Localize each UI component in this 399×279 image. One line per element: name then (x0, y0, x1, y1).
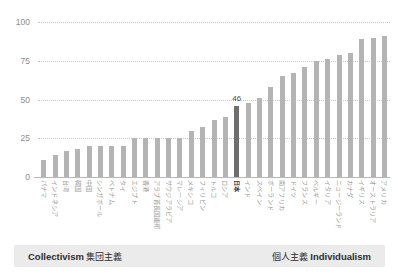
x-axis-tick-label: フランス (302, 180, 308, 205)
bar (121, 146, 126, 177)
x-axis-tick-label: アラブ首長国連邦 (154, 180, 160, 230)
bar-column (197, 22, 208, 177)
bar (177, 138, 182, 177)
x-axis-label-slot: パナマ (38, 180, 49, 236)
bar-highlighted (234, 106, 239, 177)
bar-column (322, 22, 333, 177)
x-axis-tick-label: トルコ (211, 180, 217, 199)
x-axis-label-slot: ポーランド (265, 180, 276, 236)
bar-column (129, 22, 140, 177)
bar (280, 76, 285, 177)
x-axis-tick-label: 中国 (86, 180, 92, 192)
bar-column (345, 22, 356, 177)
bar (53, 155, 58, 177)
x-axis-tick-label: 南アフリカ (279, 180, 285, 211)
bar-column (163, 22, 174, 177)
x-axis-label-slot: 香港 (140, 180, 151, 236)
bar (212, 120, 217, 177)
bar (41, 160, 46, 177)
bar-column (49, 22, 60, 177)
x-axis-tick-label: イタリア (325, 180, 331, 205)
y-axis: 0255075100 (0, 22, 30, 177)
x-axis-label-slot: カナダ (345, 180, 356, 236)
bar-column (38, 22, 49, 177)
x-axis-tick-label: アメリカ (381, 180, 387, 205)
y-axis-tick-label: 0 (0, 173, 30, 181)
x-axis-category-labels: パナマインドネシア台湾韓国中国シンガポールベトナムタイエジプト香港アラブ首長国連… (38, 180, 390, 236)
x-axis-label-slot: ドイツ (288, 180, 299, 236)
x-axis-label-slot: メキシコ (186, 180, 197, 236)
x-axis-tick-label: 韓国 (75, 180, 81, 192)
bar (268, 87, 273, 177)
bar-column (208, 22, 219, 177)
bar-column (333, 22, 344, 177)
x-axis-label-slot: ベトナム (106, 180, 117, 236)
bar (382, 36, 387, 177)
x-axis-tick-label: マレーシア (177, 180, 183, 211)
x-axis-tick-label: ポーランド (268, 180, 274, 211)
x-axis-label-slot: タイ (118, 180, 129, 236)
bar (371, 38, 376, 178)
bar-column (254, 22, 265, 177)
bar (143, 138, 148, 177)
x-axis-tick-label: インドネシア (52, 180, 58, 217)
x-axis-label-slot: フランス (299, 180, 310, 236)
bar (257, 98, 262, 177)
x-axis-label-slot: サウジアラビア (163, 180, 174, 236)
bar-column (106, 22, 117, 177)
bar-column (265, 22, 276, 177)
x-axis-line (34, 177, 390, 178)
bar-column (72, 22, 83, 177)
bar-column (186, 22, 197, 177)
x-axis-tick-label: ドイツ (290, 180, 296, 199)
bar-column (356, 22, 367, 177)
x-axis-tick-label: スペイン (256, 180, 262, 205)
bar (98, 146, 103, 177)
x-axis-tick-label: 日本 (234, 180, 240, 192)
x-axis-tick-label: サウジアラビア (166, 180, 172, 223)
bar-column (118, 22, 129, 177)
bar-column (311, 22, 322, 177)
bar (189, 131, 194, 178)
bar (359, 39, 364, 177)
x-axis-label-slot: 中国 (83, 180, 94, 236)
bar-column (288, 22, 299, 177)
bar (348, 53, 353, 177)
bar-column (61, 22, 72, 177)
bar (200, 127, 205, 177)
x-axis-tick-label: パナマ (41, 180, 47, 199)
bar-column (140, 22, 151, 177)
bar-series: 46 (38, 22, 390, 177)
x-axis-tick-label: カナダ (347, 180, 353, 199)
legend-individualism-en: Individualism (310, 251, 371, 262)
x-axis-label-slot: アラブ首長国連邦 (152, 180, 163, 236)
bar-column (242, 22, 253, 177)
x-axis-tick-label: ロシア (222, 180, 228, 199)
x-axis-tick-label: ベトナム (109, 180, 115, 205)
x-axis-label-slot: イギリス (356, 180, 367, 236)
x-axis-tick-label: インド (245, 180, 251, 199)
y-axis-tick-label: 75 (0, 57, 30, 65)
x-axis-label-slot: フィリピン (197, 180, 208, 236)
x-axis-tick-label: エジプト (131, 180, 137, 205)
x-axis-label-slot: インドネシア (49, 180, 60, 236)
x-axis-tick-label: 台湾 (63, 180, 69, 192)
bar (75, 149, 80, 177)
plot-area: 46 (38, 22, 390, 177)
bar (314, 61, 319, 177)
x-axis-tick-label: ベルギー (313, 180, 319, 205)
x-axis-label-slot: ニュージーランド (333, 180, 344, 236)
bar (302, 67, 307, 177)
bar-column (83, 22, 94, 177)
x-axis-label-slot: エジプト (129, 180, 140, 236)
bar (325, 59, 330, 177)
x-axis-label-slot: イタリア (322, 180, 333, 236)
bar (291, 73, 296, 177)
x-axis-label-slot: ロシア (220, 180, 231, 236)
x-axis-tick-label: オーストラリア (370, 180, 376, 223)
legend-individualism: 個人主義 Individualism (272, 250, 371, 263)
bar (246, 103, 251, 177)
bar-column (152, 22, 163, 177)
bar-column (95, 22, 106, 177)
bar (87, 146, 92, 177)
